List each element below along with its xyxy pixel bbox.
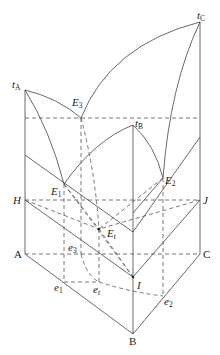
label-e3: e3 <box>68 241 77 255</box>
curve-E1-tB <box>64 125 133 184</box>
line-E1-I <box>64 184 133 277</box>
label-tC: tC <box>197 9 205 23</box>
label-E2: E2 <box>164 174 176 188</box>
label-tA: tA <box>12 78 21 92</box>
line-A-side-upper <box>25 155 133 232</box>
label-E3: E3 <box>71 96 83 110</box>
label-E1: E1 <box>50 185 62 199</box>
label-I: I <box>136 279 142 291</box>
point-Et <box>98 228 101 231</box>
label-tB: tB <box>135 117 143 131</box>
curve-e3-et <box>81 254 99 282</box>
label-e1: e1 <box>54 281 63 295</box>
label-e2: e2 <box>164 295 173 309</box>
curve-et-e2 <box>99 282 163 296</box>
curve-tA-E1 <box>25 90 64 184</box>
line-J-Et <box>99 200 200 229</box>
label-C: C <box>203 248 210 260</box>
label-et: et <box>93 283 101 297</box>
label-A: A <box>14 248 22 260</box>
curve-tC-E2 <box>163 22 200 178</box>
base-A-B <box>25 254 133 334</box>
ternary-phase-diagram: tA tC tB E3 E1 E2 Et H J I A C B e1 et e… <box>0 0 220 355</box>
label-B: B <box>129 335 136 347</box>
label-J: J <box>203 194 209 206</box>
curve-tB-E2 <box>133 125 163 178</box>
plane-H-I <box>25 200 133 277</box>
curve-E3-Et <box>81 118 99 229</box>
label-H: H <box>12 194 22 206</box>
label-Et: Et <box>106 227 117 241</box>
point-I <box>132 276 135 279</box>
